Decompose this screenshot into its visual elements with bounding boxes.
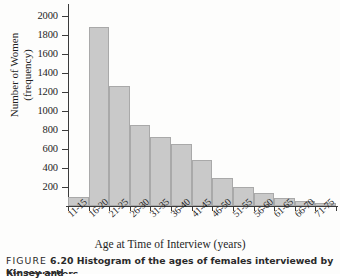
x-axis-title: Age at Time of Interview (years): [0, 238, 340, 250]
y-axis-tick-label: 400: [12, 163, 58, 173]
y-axis-tick-label: 1400: [12, 68, 58, 78]
y-axis-tick-label: 200: [12, 182, 58, 192]
bar: [130, 125, 151, 206]
y-axis-tick-label: 1200: [12, 87, 58, 97]
plot-area: [68, 8, 336, 206]
bar: [89, 27, 110, 206]
y-axis-tick-label: 2000: [12, 11, 58, 21]
bar: [109, 86, 130, 206]
figure-caption-number: 6.20: [50, 255, 74, 266]
y-axis-tick-label: 800: [12, 125, 58, 135]
y-axis-tick-label: 1800: [12, 30, 58, 40]
bar: [150, 137, 171, 206]
figure-caption-tag: FIGURE: [6, 255, 47, 266]
y-axis-tick-label: 600: [12, 144, 58, 154]
y-axis-tick-label: 1600: [12, 49, 58, 59]
figure-caption: FIGURE 6.20 Histogram of the ages of fem…: [6, 255, 338, 278]
x-axis-tick: [336, 206, 337, 211]
y-axis-tick-label: 1000: [12, 106, 58, 116]
bar: [171, 144, 192, 206]
figure-caption-line2: his coworkers: [6, 268, 338, 274]
bar-series: [68, 8, 336, 206]
